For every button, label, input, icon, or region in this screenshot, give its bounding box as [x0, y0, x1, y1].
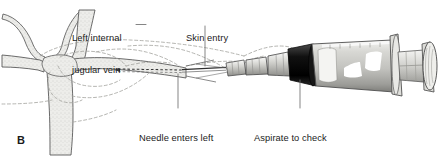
- label-jugular-line2: jugular vein: [72, 65, 122, 76]
- label-left-internal-jugular-vein: Left internal jugular vein: [72, 12, 122, 97]
- label-needle-enters-subclavian-vein: Needle enters left subclavian vein: [139, 112, 213, 163]
- label-skin-entry-line1: Skin entry: [186, 33, 228, 44]
- panel-letter: B: [17, 134, 25, 146]
- figure-panel-b: Left internal jugular vein Skin entry Ne…: [0, 0, 441, 163]
- label-needle-line1: Needle enters left: [139, 133, 213, 144]
- label-jugular-line1: Left internal: [72, 33, 122, 44]
- label-aspirate-line1: Aspirate to check: [254, 133, 330, 144]
- syringe-group: [288, 34, 437, 96]
- label-skin-entry: Skin entry: [186, 12, 228, 65]
- label-aspirate-venous-blood-flow: Aspirate to check venous blood flow: [254, 112, 330, 163]
